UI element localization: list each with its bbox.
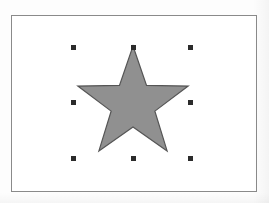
handle-middle-right[interactable] [188, 100, 193, 105]
handle-bottom-center[interactable] [131, 156, 136, 161]
handle-top-center[interactable] [131, 45, 136, 50]
handle-bottom-right[interactable] [188, 156, 193, 161]
handle-bottom-left[interactable] [71, 156, 76, 161]
document-frame [11, 15, 257, 192]
drawing-surface[interactable] [12, 16, 256, 191]
handle-top-right[interactable] [188, 45, 193, 50]
handle-top-left[interactable] [71, 45, 76, 50]
handle-middle-left[interactable] [71, 100, 76, 105]
drawing-canvas[interactable] [0, 0, 269, 203]
